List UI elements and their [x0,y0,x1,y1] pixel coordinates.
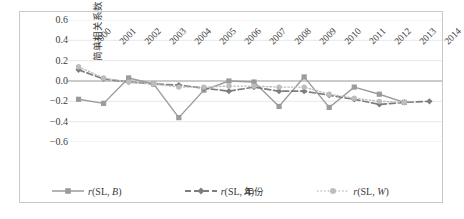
legend-label: r(SL, W) [353,186,389,197]
data-point-marker [201,84,206,89]
data-point-marker [327,92,332,97]
data-point-marker [276,104,281,109]
data-point-marker [101,101,106,106]
data-point-marker [426,98,432,104]
data-point-marker [327,105,332,110]
legend-item-r-sl--a-[interactable]: r(SL, A) [184,185,254,197]
data-point-marker [352,85,357,90]
data-point-marker [377,92,382,97]
plot-area: 简单相关系数 0.60.40.20.0−0.2−0.4−0.6 20002001… [66,20,442,142]
y-tick-label: −0.6 [34,137,68,147]
data-point-marker [276,84,281,89]
data-point-marker [76,97,81,102]
legend-swatch-circle [316,185,350,197]
legend-swatch-square [51,185,85,197]
y-tick-label: −0.2 [34,96,68,106]
data-point-marker [226,88,232,94]
data-point-marker [76,64,81,69]
data-point-marker [226,78,231,83]
data-point-marker [176,84,181,89]
y-tick-label: 0.4 [34,35,68,45]
legend-label: r(SL, B) [88,186,121,197]
data-point-marker [176,115,181,120]
data-point-marker [302,74,307,79]
legend-swatch-diamond [184,185,218,197]
y-tick-label: 0.6 [34,15,68,25]
data-point-marker [151,81,156,86]
y-tick-label: 0.0 [34,76,68,86]
data-point-marker [226,83,231,88]
series-r-sl--w- [76,64,407,105]
data-point-marker [352,96,357,101]
legend-label: r(SL, A) [221,186,254,197]
data-point-marker [301,84,306,89]
data-point-marker [126,79,131,84]
x-tick-label: 2014 [443,26,464,47]
data-point-marker [377,99,382,104]
data-point-marker [402,100,407,105]
legend-item-r-sl--b-[interactable]: r(SL, B) [51,185,121,197]
y-tick-label: −0.4 [34,117,68,127]
chart-legend: r(SL, B)r(SL, A)r(SL, W) [20,183,420,199]
data-point-marker [251,83,256,88]
data-point-marker [101,75,106,80]
y-tick-label: 0.2 [34,56,68,66]
legend-item-r-sl--w-[interactable]: r(SL, W) [316,185,389,197]
